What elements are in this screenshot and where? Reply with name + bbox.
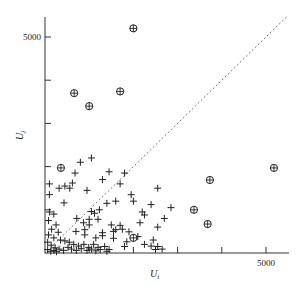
plus-marker-icon	[106, 168, 113, 175]
plus-marker-icon	[154, 185, 161, 192]
plus-marker-icon	[53, 221, 60, 228]
circle-plus-marker-icon	[206, 176, 213, 183]
x-axis-label-sub: i	[157, 273, 159, 281]
plus-marker-icon	[95, 216, 102, 223]
plus-marker-icon	[161, 215, 168, 222]
plus-marker-icon	[148, 243, 155, 250]
circle-plus-marker-icon	[270, 164, 277, 171]
plus-marker-icon	[61, 199, 68, 206]
scatter-chart: 5000 5000 Ui Uj	[0, 0, 301, 295]
circle-plus-marker-icon	[190, 206, 197, 213]
plus-marker-icon	[45, 231, 52, 238]
y-tick-label: 5000	[23, 32, 42, 42]
plus-marker-icon	[45, 217, 52, 224]
plus-marker-icon	[86, 216, 93, 223]
plus-marker-icon	[141, 241, 148, 248]
plus-marker-icon	[108, 221, 115, 228]
plus-marker-icon	[88, 208, 95, 215]
plus-marker-icon	[61, 237, 68, 244]
plus-marker-icon	[48, 226, 55, 233]
axes: 5000 5000	[23, 17, 289, 268]
circle-plus-marker-icon	[57, 164, 64, 171]
plus-marker-icon	[77, 159, 84, 166]
x-tick-label: 5000	[257, 258, 276, 268]
plus-marker-icon	[137, 219, 144, 226]
plus-marker-icon	[72, 228, 79, 235]
y-ticks: 5000	[23, 32, 51, 210]
plus-marker-icon	[46, 180, 53, 187]
x-axis-label: Ui	[150, 268, 159, 281]
plus-marker-icon	[81, 226, 88, 233]
plus-marker-icon	[92, 234, 99, 241]
plus-marker-icon	[88, 154, 95, 161]
plus-marker-icon	[112, 198, 119, 205]
plus-marker-icon	[64, 244, 71, 251]
plus-marker-icon	[103, 200, 110, 207]
plus-marker-icon	[99, 232, 106, 239]
plus-marker-icon	[128, 191, 135, 198]
circle-plus-marker-icon	[71, 90, 78, 97]
x-ticks: 5000	[89, 247, 275, 268]
plus-marker-icon	[121, 170, 128, 177]
plus-marker-icon	[96, 206, 103, 213]
plus-marker-icon	[72, 170, 79, 177]
plus-marker-icon	[83, 187, 90, 194]
circle-plus-marker-icon	[130, 234, 137, 241]
circle-plus-marker-icon	[204, 220, 211, 227]
plus-marker-icon	[110, 235, 117, 242]
plus-marker-icon	[154, 224, 161, 231]
y-axis-label: Uj	[14, 131, 27, 140]
plus-marker-icon	[148, 201, 155, 208]
circle-plus-marker-icon	[130, 25, 137, 32]
plus-marker-icon	[46, 191, 53, 198]
plus-marker-icon	[167, 204, 174, 211]
diagonal-reference-line	[45, 15, 288, 253]
plus-marker-icon	[50, 234, 57, 241]
plus-marker-icon	[99, 176, 106, 183]
plus-marker-icon	[125, 228, 132, 235]
y-axis-label-sub: j	[19, 131, 27, 134]
plus-marker-icon	[55, 229, 62, 236]
plus-marker-icon	[57, 237, 64, 244]
circle-plus-marker-icon	[117, 88, 124, 95]
plus-marker-icon	[73, 215, 80, 222]
reference-line-layer	[45, 15, 288, 253]
plus-marker-icon	[91, 210, 98, 217]
plus-marker-icon	[130, 198, 137, 205]
plus-marker-icon	[150, 237, 157, 244]
circle-plus-marker-icon	[86, 103, 93, 110]
